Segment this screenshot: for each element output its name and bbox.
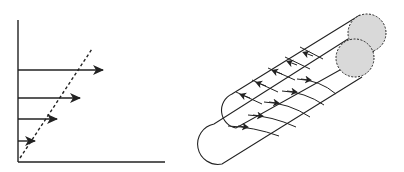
cylinder-flow-diagram: [0, 0, 404, 172]
diagram-canvas: [0, 0, 404, 172]
forward-flow-lines: [228, 79, 336, 136]
front-cylinder-end: [336, 39, 374, 77]
reverse-flow-lines: [236, 47, 323, 104]
